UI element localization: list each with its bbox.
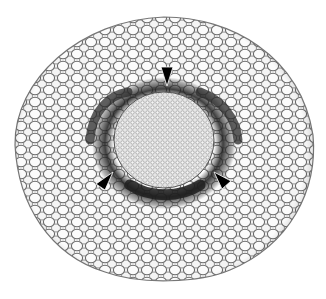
- micrograph-container: [0, 0, 326, 299]
- plant-cross-section-image: [0, 0, 326, 299]
- stele: [114, 92, 214, 188]
